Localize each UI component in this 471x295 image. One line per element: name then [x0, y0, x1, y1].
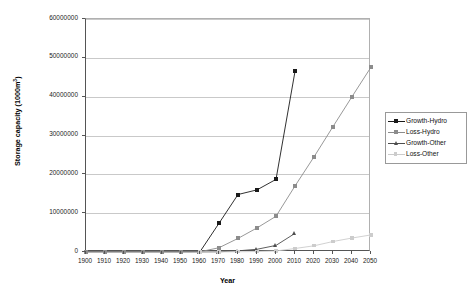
x-axis-tick-mark: [237, 251, 238, 254]
x-axis-tick-mark: [104, 251, 105, 254]
x-axis-tick-mark: [123, 251, 124, 254]
data-point-marker: [331, 240, 334, 243]
data-point-marker: [331, 125, 335, 129]
x-axis-tick-mark: [332, 251, 333, 254]
series-line: [200, 235, 371, 252]
y-axis-tick-mark: [82, 18, 85, 19]
x-axis-title: Year: [85, 276, 370, 285]
legend-item: Growth-Hydro: [388, 116, 464, 127]
data-point-marker: [312, 155, 316, 159]
x-axis-tick-mark: [142, 251, 143, 254]
x-axis-tick-mark: [351, 251, 352, 254]
x-axis-tick-mark: [275, 251, 276, 254]
legend-marker-icon: [388, 117, 405, 126]
data-point-marker: [273, 243, 277, 247]
series-lines: [86, 19, 371, 252]
data-point-marker: [292, 231, 296, 235]
x-axis-tick-mark: [294, 251, 295, 254]
legend-item: Loss-Hydro: [388, 127, 464, 138]
legend-label: Growth-Hydro: [405, 118, 447, 125]
x-axis-tick-mark: [370, 251, 371, 254]
data-point-marker: [255, 188, 259, 192]
x-axis-tick-mark: [161, 251, 162, 254]
x-axis-tick-mark: [85, 251, 86, 254]
data-point-marker: [293, 184, 297, 188]
legend-item: Growth-Other: [388, 138, 464, 149]
plot-area: [85, 18, 370, 251]
y-axis-tick-mark: [82, 212, 85, 213]
series-line: [86, 67, 371, 252]
legend-marker-icon: [388, 139, 405, 148]
y-axis-tick-mark: [82, 135, 85, 136]
chart-legend: Growth-HydroLoss-HydroGrowth-OtherLoss-O…: [385, 112, 467, 164]
x-axis-tick-mark: [256, 251, 257, 254]
data-point-marker: [236, 236, 240, 240]
x-axis-tick-mark: [313, 251, 314, 254]
x-axis-tick-mark: [218, 251, 219, 254]
y-axis-tick-label: 60000000: [0, 15, 78, 21]
legend-item: Loss-Other: [388, 149, 464, 160]
legend-marker-icon: [388, 128, 405, 137]
line-chart: 6000000050000000400000003000000020000000…: [0, 0, 471, 295]
data-point-marker: [274, 214, 278, 218]
data-point-marker: [236, 193, 240, 197]
y-axis-tick-mark: [82, 57, 85, 58]
data-point-marker: [274, 177, 278, 181]
data-point-marker: [293, 69, 297, 73]
y-axis-tick-label: 10000000: [0, 209, 78, 215]
legend-marker-icon: [388, 150, 405, 159]
x-axis-tick-mark: [180, 251, 181, 254]
data-point-marker: [350, 236, 353, 239]
data-point-marker: [312, 244, 315, 247]
y-axis-tick-mark: [82, 96, 85, 97]
data-point-marker: [293, 247, 296, 250]
x-axis-tick-label: 2050: [353, 258, 387, 264]
series-line: [86, 71, 295, 251]
data-point-marker: [369, 233, 372, 236]
legend-label: Loss-Hydro: [405, 129, 440, 136]
y-axis-title: Storage capacity (1000m3): [12, 46, 22, 196]
y-axis-tick-mark: [82, 173, 85, 174]
data-point-marker: [217, 221, 221, 225]
data-point-marker: [369, 65, 373, 69]
legend-label: Loss-Other: [405, 151, 439, 158]
data-point-marker: [255, 226, 259, 230]
y-axis-tick-label: 0: [0, 248, 78, 254]
x-axis-tick-mark: [199, 251, 200, 254]
legend-label: Growth-Other: [405, 140, 446, 147]
data-point-marker: [350, 95, 354, 99]
